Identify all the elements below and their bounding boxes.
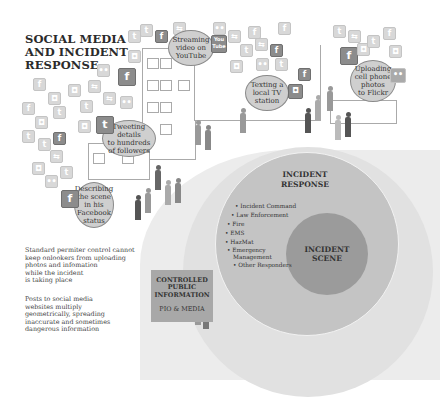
list-item: • Incident Command xyxy=(225,202,296,211)
list-item: • Fire xyxy=(225,220,296,229)
facebook-icon: f xyxy=(33,78,46,91)
controlled-label: INFORMATION xyxy=(151,292,213,299)
window xyxy=(147,102,159,113)
chat-icon: ◘ xyxy=(288,84,303,99)
bubble-text: Describing xyxy=(75,185,114,193)
person-figure xyxy=(155,165,161,190)
bubble-text: to hundreds xyxy=(108,139,151,147)
bubble-text: of followers xyxy=(108,147,151,155)
share-icon: ⇆ xyxy=(88,80,101,93)
bubble-text: to Flickr xyxy=(355,89,392,97)
twitter-icon: t xyxy=(140,24,153,37)
bubble-text: video on xyxy=(172,44,209,52)
list-item: • Other Responders xyxy=(225,261,296,270)
page-title: SOCIAL MEDIA AND INCIDENT RESPONSE xyxy=(25,33,128,72)
bubble-text: YouTube xyxy=(172,52,209,60)
person-figure xyxy=(315,95,321,120)
flickr-icon: •• xyxy=(390,68,406,83)
window xyxy=(147,80,159,91)
bubble-text: the scene xyxy=(75,193,114,201)
person-figure xyxy=(135,195,141,220)
person-figure xyxy=(240,108,246,133)
facebook-icon: f xyxy=(270,44,283,57)
posts-note: Posts to social media websites multiply … xyxy=(25,296,110,334)
bubble-text: Streaming xyxy=(172,36,209,44)
bubble-text: photos xyxy=(355,81,392,89)
bubble-text: status xyxy=(75,217,114,225)
incident-scene-label: INCIDENT xyxy=(304,245,349,255)
facebook-icon: f xyxy=(22,102,35,115)
controlled-public-information-box: CONTROLLED PUBLIC INFORMATION PIO & MEDI… xyxy=(151,270,213,322)
twitter-icon: t xyxy=(333,25,346,38)
person-figure xyxy=(345,112,351,137)
twitter-icon: t xyxy=(60,166,73,179)
bubble-text: Tweeting xyxy=(108,123,151,131)
facebook-bubble: Describing the scene in his Facebook sta… xyxy=(74,182,114,228)
window xyxy=(160,102,172,113)
chat-icon: ◘ xyxy=(128,50,141,63)
twitter-icon: t xyxy=(22,130,35,143)
incident-response-title-line: INCIDENT xyxy=(265,170,345,180)
chat-icon: ◘ xyxy=(78,120,91,133)
facebook-icon: f xyxy=(61,190,79,208)
person-figure xyxy=(335,115,341,140)
note-line: is taking place xyxy=(25,277,135,285)
person-figure xyxy=(205,125,211,150)
share-icon: ⇆ xyxy=(103,92,116,105)
share-icon: ⇆ xyxy=(228,30,241,43)
bubble-text: details xyxy=(108,131,151,139)
incident-response-title: INCIDENT RESPONSE xyxy=(265,170,345,189)
person-figure xyxy=(165,180,171,205)
chat-icon: ◘ xyxy=(389,45,402,58)
flickr-icon: •• xyxy=(256,58,269,71)
flickr-icon: •• xyxy=(120,96,133,109)
chat-icon: ◘ xyxy=(230,60,243,73)
twitter-icon: t xyxy=(240,44,253,57)
twitter-icon: t xyxy=(53,106,66,119)
chat-icon: ◘ xyxy=(35,116,48,129)
pio-media-label: PIO & MEDIA xyxy=(151,306,213,313)
window xyxy=(147,58,159,69)
title-line: RESPONSE xyxy=(25,59,128,72)
facebook-icon: f xyxy=(155,30,168,43)
facebook-icon: f xyxy=(340,47,358,65)
chat-icon: ◘ xyxy=(32,162,45,175)
share-icon: ⇆ xyxy=(255,38,268,51)
youtube-bubble: Streaming video on YouTube xyxy=(168,30,214,66)
twitter-icon: t xyxy=(275,58,288,71)
flickr-icon: •• xyxy=(45,175,58,188)
bubble-text: in his xyxy=(75,201,114,209)
facebook-icon: f xyxy=(278,22,291,35)
flickr-icon: •• xyxy=(213,22,226,35)
list-item: • Law Enforcement xyxy=(225,211,296,220)
window xyxy=(93,153,105,164)
bubble-text: Texting a xyxy=(251,81,284,89)
responders-list: • Incident Command • Law Enforcement • F… xyxy=(225,202,296,270)
chat-icon: ◘ xyxy=(68,84,81,97)
twitter-icon: t xyxy=(38,138,51,151)
twitter-icon: t xyxy=(96,116,114,134)
bubble-text: cell phone xyxy=(355,73,392,81)
perimeter-note: Standard permiter control cannot keep on… xyxy=(25,247,135,285)
window xyxy=(160,58,172,69)
window xyxy=(160,124,172,135)
bubble-text: local TV xyxy=(251,89,284,97)
facebook-icon: f xyxy=(298,68,311,81)
facebook-icon: f xyxy=(383,27,396,40)
window xyxy=(178,80,190,91)
facebook-icon: f xyxy=(118,68,136,86)
bubble-text: station xyxy=(251,97,284,105)
youtube-icon: You Tube xyxy=(211,35,227,53)
flickr-icon: •• xyxy=(97,64,110,77)
incident-scene-circle: INCIDENT SCENE xyxy=(286,213,368,295)
chat-icon: ◘ xyxy=(48,92,61,105)
person-figure xyxy=(145,188,151,213)
tv-bubble: Texting a local TV station xyxy=(245,75,289,111)
share-icon: ⇆ xyxy=(50,150,63,163)
list-item: Management xyxy=(225,254,296,261)
twitter-icon: t xyxy=(80,100,93,113)
incident-scene-label: SCENE xyxy=(304,254,349,264)
list-item: • HazMat xyxy=(225,238,296,247)
note-line: dangerous information xyxy=(25,326,110,334)
window xyxy=(160,80,172,91)
